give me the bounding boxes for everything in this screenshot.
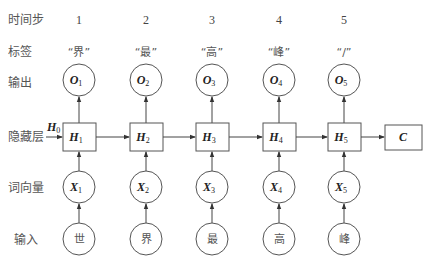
final-state-label: C xyxy=(399,130,408,144)
timestep-column-3: 3 “高” O3 H3 X3 最 xyxy=(196,13,229,255)
row-label-output: 输出 xyxy=(8,75,32,90)
timestep-column-2: 2 “最” O2 H2 X2 界 xyxy=(130,13,163,255)
timestep-number: 1 xyxy=(76,13,82,27)
row-label-tag: 标签 xyxy=(8,44,32,59)
timestep-column-1: 1 “界” O1 H1 X1 世 xyxy=(63,13,96,255)
row-label-timestep: 时间步 xyxy=(8,13,44,27)
row-label-hidden: 隐藏层 xyxy=(8,130,44,144)
timestep-number: 4 xyxy=(276,13,282,27)
timestep-number: 5 xyxy=(341,13,347,27)
target-tag: “最” xyxy=(135,46,157,59)
row-label-input: 输入 xyxy=(14,232,38,247)
timestep-number: 3 xyxy=(209,13,215,27)
rnn-diagram: 时间步 标签 输出 隐藏层 词向量 输入 H0 1 “界” O1 H1 X1 世… xyxy=(0,0,425,265)
timestep-column-5: 5 “/” O5 H5 X5 峰 xyxy=(328,13,361,255)
row-label-embedding: 词向量 xyxy=(8,180,44,195)
target-tag: “/” xyxy=(336,46,351,59)
input-char: 世 xyxy=(74,233,85,246)
target-tag: “高” xyxy=(201,45,223,59)
h0-label: H0 xyxy=(46,120,60,135)
timestep-column-4: 4 “峰” O4 H4 X4 高 xyxy=(263,13,296,255)
input-char: 峰 xyxy=(339,233,350,246)
target-tag: “界” xyxy=(68,46,90,59)
input-char: 界 xyxy=(141,233,152,246)
target-tag: “峰” xyxy=(268,46,290,59)
input-char: 高 xyxy=(274,232,285,246)
input-char: 最 xyxy=(207,233,218,246)
timestep-number: 2 xyxy=(143,13,149,27)
